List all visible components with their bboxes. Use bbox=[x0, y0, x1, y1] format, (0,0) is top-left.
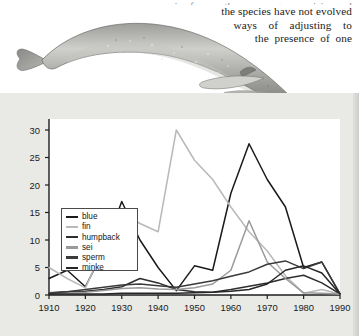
legend-item-blue[interactable]: blue bbox=[66, 212, 133, 222]
chart-legend: bluefinhumpbackseispermminke bbox=[61, 208, 138, 271]
y-tick-label-25: 25 bbox=[20, 152, 40, 163]
y-tick-label-0: 0 bbox=[20, 290, 40, 301]
legend-item-humpback[interactable]: humpback bbox=[66, 232, 133, 242]
body-text-line-3: the presence of one bbox=[0, 32, 359, 46]
x-tick-label-1940: 1940 bbox=[141, 302, 175, 313]
legend-item-fin[interactable]: fin bbox=[66, 222, 133, 232]
x-tick-label-1920: 1920 bbox=[68, 302, 102, 313]
legend-label-minke: minke bbox=[82, 263, 104, 272]
legend-label-sei: sei bbox=[82, 243, 92, 252]
legend-label-humpback: humpback bbox=[82, 233, 120, 242]
x-tick-label-1930: 1930 bbox=[105, 302, 139, 313]
x-tick-label-1960: 1960 bbox=[214, 302, 248, 313]
whale-catch-chart-panel: Number of Whales Caught (in thousands) Y… bbox=[0, 93, 359, 336]
x-tick-label-1950: 1950 bbox=[178, 302, 212, 313]
legend-item-sperm[interactable]: sperm bbox=[66, 253, 133, 263]
legend-item-sei[interactable]: sei bbox=[66, 243, 133, 253]
x-tick-label-1970: 1970 bbox=[250, 302, 284, 313]
legend-label-blue: blue bbox=[82, 212, 97, 221]
y-tick-label-10: 10 bbox=[20, 235, 40, 246]
legend-swatch-humpback bbox=[66, 236, 78, 238]
legend-swatch-fin bbox=[66, 226, 78, 228]
body-text-line-2: ways of adjusting to bbox=[0, 19, 359, 33]
x-tick-label-1980: 1980 bbox=[287, 302, 321, 313]
legend-label-sperm: sperm bbox=[82, 253, 105, 262]
legend-swatch-minke bbox=[66, 267, 78, 269]
legend-swatch-sperm bbox=[66, 256, 78, 258]
x-tick-label-1990: 1990 bbox=[323, 302, 357, 313]
y-tick-label-15: 15 bbox=[20, 207, 40, 218]
y-tick-label-30: 30 bbox=[20, 125, 40, 136]
y-tick-label-5: 5 bbox=[20, 262, 40, 273]
legend-swatch-sei bbox=[66, 246, 78, 248]
body-text-line-0: species face as the oceans grow noisier … bbox=[0, 0, 359, 5]
line-chart-plot bbox=[0, 93, 359, 336]
body-text-line-1: the species have not evolved bbox=[0, 5, 359, 19]
body-text-block: species face as the oceans grow noisier … bbox=[0, 0, 359, 46]
legend-swatch-blue bbox=[66, 216, 78, 218]
y-tick-label-20: 20 bbox=[20, 180, 40, 191]
legend-item-minke[interactable]: minke bbox=[66, 263, 133, 273]
x-tick-label-1910: 1910 bbox=[32, 302, 66, 313]
legend-label-fin: fin bbox=[82, 222, 91, 231]
